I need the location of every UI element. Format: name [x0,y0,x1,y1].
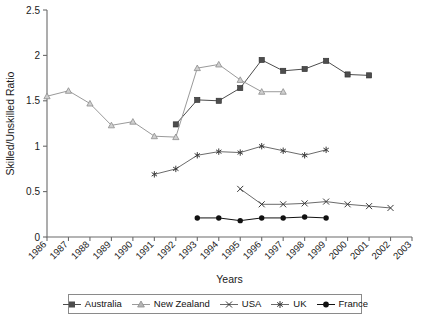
data-point-marker [195,97,200,102]
legend-label-new-zealand: New Zealand [154,299,210,309]
y-axis-title: Skilled/Unskilled Ratio [4,71,16,175]
line-chart-plot: 00.511.522.51986198719881989199019911992… [0,0,430,320]
x-axis-tick-label: 2003 [391,239,414,262]
x-axis-tick-label: 1992 [155,239,178,262]
x-axis-tick-label: 1999 [305,239,328,262]
x-axis-tick-label: 2000 [326,239,349,262]
legend-marker-cross-icon [219,299,239,310]
data-point-marker [195,215,200,220]
data-point-marker [302,66,307,71]
chart-legend: Australia New Zealand USA UK [68,294,362,314]
legend-marker-circle-icon [316,299,336,310]
data-point-marker [237,186,243,192]
x-axis-tick-label: 1986 [26,239,49,262]
legend-item-france[interactable]: France [316,299,369,310]
data-point-marker [237,77,243,83]
legend-item-australia[interactable]: Australia [62,299,122,310]
marker-circle [195,215,200,220]
series-line-new-zealand [47,64,283,137]
data-point-marker [238,85,243,90]
x-axis-tick-label: 1998 [283,239,306,262]
marker-square [281,68,286,73]
x-axis-tick-label: 2002 [369,239,392,262]
marker-square [238,85,243,90]
y-axis-tick-label: 0.5 [26,186,40,197]
marker-square [324,58,329,63]
data-point-marker [324,58,329,63]
data-point-marker [366,73,371,78]
y-axis-tick-label: 1 [34,141,40,152]
data-point-marker [281,68,286,73]
legend-marker-asterisk-icon [270,299,290,310]
marker-square [195,97,200,102]
legend-label-france: France [339,299,369,309]
x-axis-title: Years [216,273,242,285]
marker-square [345,72,350,77]
legend-item-uk[interactable]: UK [270,299,306,310]
legend-label-uk: UK [293,299,306,309]
x-axis-tick-label: 1991 [133,239,156,262]
legend-item-usa[interactable]: USA [219,299,262,310]
marker-square [216,98,221,103]
legend-item-new-zealand[interactable]: New Zealand [131,299,210,310]
marker-triangle [237,77,243,83]
legend-label-australia: Australia [85,299,122,309]
marker-circle [238,218,243,223]
x-axis-tick-label: 1990 [112,239,135,262]
marker-square [173,122,178,127]
data-point-marker [345,72,350,77]
marker-triangle [130,119,136,125]
y-axis-tick-label: 2.5 [26,5,40,16]
marker-circle [259,215,264,220]
y-axis-tick-label: 1.5 [26,95,40,106]
data-point-marker [87,100,93,106]
marker-square [302,66,307,71]
marker-square [259,57,264,62]
x-axis-tick-label: 1993 [176,239,199,262]
x-axis-tick-label: 1997 [262,239,285,262]
x-axis-tick-label: 1995 [219,239,242,262]
legend-marker-square-icon [62,299,82,310]
legend-marker-triangle-icon [131,299,151,310]
data-point-marker [216,215,221,220]
legend-label-usa: USA [242,299,262,309]
data-point-marker [216,98,221,103]
data-point-marker [238,218,243,223]
marker-square [366,73,371,78]
marker-circle [216,215,221,220]
data-point-marker [259,57,264,62]
data-point-marker [323,215,328,220]
data-point-marker [280,215,285,220]
data-point-marker [259,215,264,220]
data-point-marker [302,214,307,219]
chart-root: 00.511.522.51986198719881989199019911992… [0,0,430,320]
data-point-marker [216,61,222,67]
data-point-marker [65,88,71,94]
x-axis-tick-label: 2001 [348,239,371,262]
marker-triangle [87,100,93,106]
x-axis-tick-label: 1996 [240,239,263,262]
x-axis-tick-label: 1994 [197,239,220,262]
marker-circle [302,214,307,219]
data-point-marker [173,122,178,127]
y-axis-tick-label: 2 [34,50,40,61]
marker-circle [280,215,285,220]
chart-axes [47,10,412,237]
x-axis-tick-label: 1989 [90,239,113,262]
marker-triangle [216,61,222,67]
marker-circle [323,215,328,220]
data-point-marker [130,119,136,125]
marker-triangle [65,88,71,94]
x-axis-tick-label: 1987 [47,239,70,262]
x-axis-tick-label: 1988 [69,239,92,262]
